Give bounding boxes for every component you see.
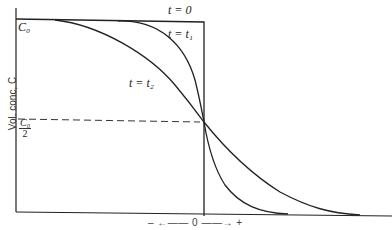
curve-label-t0: t = 0 xyxy=(168,3,191,18)
half-level-label: C₀ 2 xyxy=(19,118,31,139)
curve-t1 xyxy=(118,21,288,214)
curve-label-t1: t = t₁ xyxy=(168,27,193,42)
half-level-dashed-line xyxy=(18,119,200,122)
diffusion-diagram xyxy=(0,0,392,230)
curve-label-t2: t = t₂ xyxy=(129,76,154,91)
y-axis-label: Vol. conc, C xyxy=(7,64,18,144)
c0-label: C₀ xyxy=(18,20,30,35)
curve-t0 xyxy=(16,19,204,216)
x-axis-label: – ←—— 0 ——→ + xyxy=(148,217,243,228)
half-level-denominator: 2 xyxy=(19,129,31,139)
curve-t2 xyxy=(55,20,360,215)
